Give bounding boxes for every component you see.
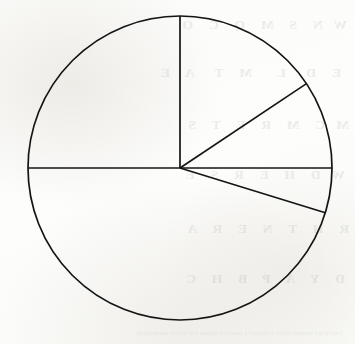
radius-lower-diagonal bbox=[180, 168, 325, 213]
pie-chart bbox=[0, 0, 355, 344]
figure-page: W N S M Q C O E D L M T A E M C M R E T … bbox=[0, 0, 355, 344]
radius-upper-diagonal bbox=[180, 84, 306, 168]
pie-radius-group bbox=[28, 16, 332, 213]
